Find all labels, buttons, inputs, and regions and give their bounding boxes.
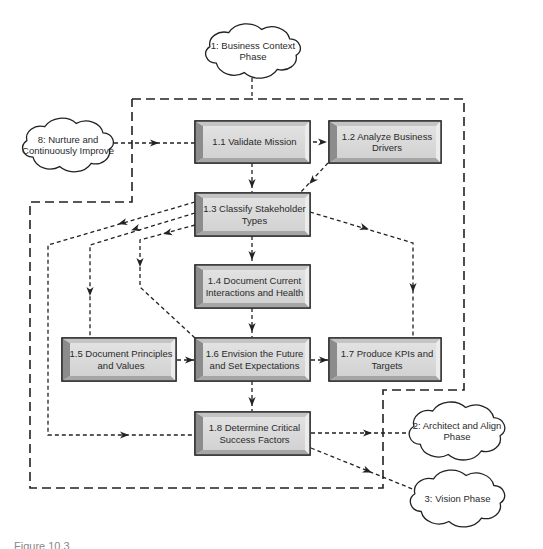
connector-b18-to-c3: [311, 448, 415, 490]
connector-b13-to-b16: [136, 225, 195, 338]
activity-box-label: 1.5 Document Principles: [70, 348, 173, 359]
phase-cloud-c3[interactable]: 3: Vision Phase: [410, 470, 504, 527]
connector-b11-to-b12: [313, 138, 327, 145]
activity-box-b15[interactable]: 1.5 Document Principlesand Values: [62, 338, 176, 381]
activity-box-label: 1.6 Envision the Future: [206, 348, 304, 359]
activity-box-label: Drivers: [372, 142, 402, 153]
cloud-label: 8: Nurture and: [38, 134, 99, 145]
cloud-label: Phase: [240, 51, 267, 62]
cloud-label: Continuously Improve: [22, 145, 114, 156]
connector-b16-to-b18: [248, 381, 255, 411]
cloud-label: Phase: [444, 431, 471, 442]
connector-b13-to-b17: [310, 212, 417, 338]
cloud-label: 1: Business Context: [211, 40, 296, 51]
activity-box-label: and Values: [98, 360, 145, 371]
activity-box-label: 1.3 Classify Stakeholder: [203, 203, 305, 214]
activity-box-label: Success Factors: [219, 434, 289, 445]
activity-box-b16[interactable]: 1.6 Envision the Futureand Set Expectati…: [195, 338, 310, 381]
connector-b13-to-b18: [48, 202, 195, 439]
connector-b11-to-b13: [248, 163, 255, 192]
activity-box-label: 1.2 Analyze Business: [342, 131, 433, 142]
connector-b13-to-b14: [248, 236, 255, 264]
connector-b13-to-b15: [86, 213, 195, 338]
phase-cloud-c8[interactable]: 8: Nurture andContinuously Improve: [22, 118, 114, 172]
arrowhead-icon: [117, 218, 128, 227]
arrowhead-icon: [136, 258, 143, 267]
arrowhead-icon: [318, 138, 327, 145]
arrowhead-icon: [162, 228, 173, 237]
arrowhead-icon: [359, 223, 370, 233]
phase-cloud-c2[interactable]: 2: Architect and AlignPhase: [409, 402, 505, 460]
activity-box-b12[interactable]: 1.2 Analyze BusinessDrivers: [329, 121, 441, 163]
phase-cloud-c1[interactable]: 1: Business ContextPhase: [206, 24, 301, 78]
arrowhead-icon: [363, 429, 372, 436]
activity-box-b17[interactable]: 1.7 Produce KPIs andTargets: [329, 338, 441, 381]
activity-box-label: 1.4 Document Current: [208, 275, 302, 286]
activity-box-label: and Set Expectations: [210, 360, 300, 371]
connector-b16-to-b17: [311, 356, 328, 363]
arrowhead-icon: [86, 287, 93, 296]
connector-c8-to-b11: [114, 139, 195, 146]
activity-box-b13[interactable]: 1.3 Classify StakeholderTypes: [195, 193, 310, 236]
activity-box-b18[interactable]: 1.8 Determine CriticalSuccess Factors: [195, 412, 310, 455]
connector-b12-to-b13: [300, 163, 328, 193]
cloud-label: 2: Architect and Align: [413, 420, 502, 431]
activity-box-label: Targets: [371, 360, 402, 371]
connector-b15-to-b16: [177, 356, 194, 363]
activity-box-b14[interactable]: 1.4 Document CurrentInteractions and Hea…: [195, 265, 310, 308]
process-diagram: 1.1 Validate Mission1.2 Analyze Business…: [0, 0, 543, 549]
cloud-label: 3: Vision Phase: [425, 493, 491, 504]
activity-box-label: 1.7 Produce KPIs and: [341, 348, 433, 359]
activity-box-label: Types: [242, 215, 268, 226]
connector-b18-to-c2: [311, 429, 410, 436]
figure-caption: Figure 10.3: [14, 540, 70, 549]
activity-box-b11[interactable]: 1.1 Validate Mission: [195, 121, 310, 163]
activity-box-label: Interactions and Health: [206, 287, 304, 298]
activity-box-label: 1.8 Determine Critical: [209, 422, 300, 433]
connector-b14-to-b16: [248, 308, 255, 337]
arrowhead-icon: [362, 466, 373, 476]
activity-box-label: 1.1 Validate Mission: [212, 136, 296, 147]
